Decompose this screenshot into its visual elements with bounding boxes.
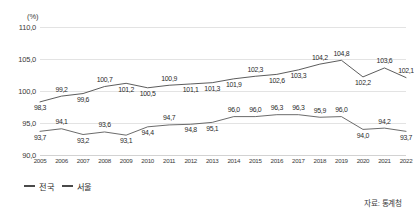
data-label-전국-2016: 102,6: [269, 78, 285, 85]
x-axis-tick-label-2020: 2020: [357, 157, 370, 164]
data-label-전국-2011: 100,9: [161, 76, 177, 83]
data-label-전국-2005: 98,3: [34, 105, 46, 112]
y-axis-unit-label: (%): [27, 12, 38, 21]
data-label-서울-2005: 93,7: [34, 135, 46, 142]
data-label-서울-2007: 93,2: [77, 138, 89, 145]
x-axis-tick-label-2019: 2019: [335, 157, 348, 164]
data-label-전국-2018: 104,2: [312, 55, 328, 62]
data-label-전국-2012: 101,1: [183, 87, 199, 94]
data-label-서울-2022: 93,7: [400, 135, 412, 142]
data-label-전국-2008: 100,7: [97, 77, 113, 84]
data-label-서울-2011: 94,7: [163, 115, 175, 122]
x-axis-tick-label-2016: 2016: [271, 157, 284, 164]
y-axis-tick-label: 105,0: [2, 55, 36, 64]
data-label-서울-2018: 95,9: [314, 108, 326, 115]
data-label-서울-2017: 96,3: [292, 105, 304, 112]
data-label-전국-2021: 103,6: [377, 58, 393, 65]
data-label-전국-2009: 101,2: [118, 87, 134, 94]
data-label-전국-2014: 101,9: [226, 82, 242, 89]
data-label-전국-2022: 102,1: [398, 68, 414, 75]
data-label-전국-2019: 104,8: [334, 51, 350, 58]
legend-item-seoul[interactable]: 서울: [62, 180, 93, 192]
y-axis-tick-label: 95,0: [2, 119, 36, 128]
source-note: 자료: 통계청: [364, 197, 402, 208]
x-axis-tick-label-2018: 2018: [314, 157, 327, 164]
data-label-전국-2007: 99,6: [77, 97, 89, 104]
data-label-서울-2019: 96,0: [335, 107, 347, 114]
legend-swatch-seoul: [62, 185, 73, 186]
x-axis-tick-label-2007: 2007: [77, 157, 90, 164]
x-axis-tick-label-2022: 2022: [400, 157, 413, 164]
data-label-전국-2013: 101,3: [204, 86, 220, 93]
x-axis-tick-label-2017: 2017: [292, 157, 305, 164]
data-label-전국-2010: 100,5: [140, 91, 156, 98]
legend-item-national[interactable]: 전국: [24, 180, 55, 192]
x-axis-tick-label-2008: 2008: [98, 157, 111, 164]
data-label-전국-2020: 102,2: [355, 80, 371, 87]
legend-label-seoul: 서울: [77, 180, 93, 192]
line-series-전국: [40, 60, 406, 102]
y-axis-tick-label: 110,0: [2, 23, 36, 32]
x-axis-tick-label-2009: 2009: [120, 157, 133, 164]
data-label-서울-2014: 96,0: [228, 107, 240, 114]
x-axis-tick-label-2021: 2021: [378, 157, 391, 164]
data-label-서울-2013: 95,1: [206, 126, 218, 133]
chart-container: (%) 90,095,0100,0105,0110,0 200520062007…: [0, 0, 414, 216]
gridline-90_0: [40, 155, 406, 156]
data-label-서울-2012: 94,8: [185, 127, 197, 134]
legend-swatch-national: [24, 185, 35, 186]
data-label-서울-2015: 96,0: [249, 107, 261, 114]
line-series-서울: [40, 115, 406, 135]
data-label-서울-2006: 94,1: [55, 119, 67, 126]
y-axis-tick-label: 90,0: [2, 151, 36, 160]
x-axis-tick-label-2011: 2011: [163, 157, 175, 164]
y-axis-tick-label: 100,0: [2, 87, 36, 96]
data-label-서울-2008: 93,6: [98, 122, 110, 129]
x-axis-tick-label-2015: 2015: [249, 157, 262, 164]
data-label-서울-2010: 94,4: [142, 130, 154, 137]
data-label-서울-2016: 96,3: [271, 105, 283, 112]
legend-label-national: 전국: [39, 180, 55, 192]
x-axis-tick-label-2010: 2010: [141, 157, 154, 164]
chart-legend: 전국 서울: [24, 180, 92, 192]
data-label-서울-2009: 93,1: [120, 138, 132, 145]
x-axis-tick-label-2013: 2013: [206, 157, 219, 164]
plot-area: 90,095,0100,0105,0110,0 2005200620072008…: [40, 27, 406, 155]
x-axis-tick-label-2005: 2005: [34, 157, 47, 164]
x-axis-tick-label-2012: 2012: [184, 157, 197, 164]
x-axis-tick-label-2006: 2006: [55, 157, 68, 164]
data-label-전국-2017: 103,3: [290, 73, 306, 80]
x-axis-tick-label-2014: 2014: [227, 157, 240, 164]
data-label-전국-2006: 99,2: [55, 87, 67, 94]
data-label-전국-2015: 102,3: [247, 67, 263, 74]
data-label-서울-2021: 94,2: [378, 119, 390, 126]
data-label-서울-2020: 94,0: [357, 133, 369, 140]
series-lines: [40, 27, 406, 155]
